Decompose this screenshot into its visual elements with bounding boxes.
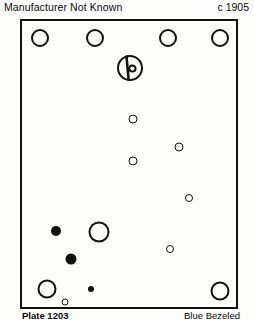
button-marker-bot-2 — [88, 286, 94, 292]
button-marker-bot-3 — [62, 299, 69, 306]
button-marker-low-2 — [89, 222, 110, 243]
material-label: Blue Bezeled — [184, 310, 240, 320]
date-label: c 1905 — [217, 0, 249, 14]
plate-frame — [20, 19, 238, 309]
button-marker-low-1 — [51, 226, 61, 236]
page-footer: Plate 1203 Blue Bezeled — [0, 310, 254, 320]
button-marker-low-4 — [66, 254, 77, 265]
button-marker-low-3 — [166, 245, 174, 253]
plate-number-label: Plate 1203 — [22, 310, 68, 320]
button-marker-top-4 — [211, 29, 229, 47]
button-marker-mid-2 — [175, 143, 184, 152]
plate-canvas — [22, 21, 236, 307]
button-marker-top-2 — [86, 29, 104, 47]
button-marker-mid-1 — [129, 115, 138, 124]
button-marker-top-1 — [31, 29, 49, 47]
makers-mark-icon — [117, 55, 143, 81]
button-marker-bot-1 — [38, 280, 57, 299]
button-marker-bot-4 — [211, 282, 230, 301]
manufacturer-label: Manufacturer Not Known — [4, 0, 122, 14]
button-marker-mid-4 — [185, 194, 193, 202]
button-marker-top-3 — [159, 29, 177, 47]
button-marker-mid-3 — [129, 157, 138, 166]
page-header: Manufacturer Not Known c 1905 — [0, 0, 254, 19]
plate-page: Manufacturer Not Known c 1905 Plate 1203… — [0, 0, 254, 320]
